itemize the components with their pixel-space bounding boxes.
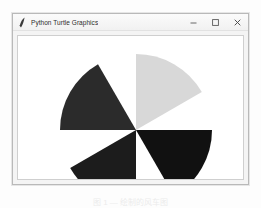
minimize-icon <box>189 18 198 27</box>
python-feather-icon <box>18 17 27 28</box>
maximize-button[interactable] <box>204 14 226 31</box>
minimize-button[interactable] <box>182 14 204 31</box>
figure-caption: 图 1 — 绘制的风车图 <box>0 198 261 208</box>
window-controls <box>182 14 248 30</box>
maximize-icon <box>211 18 220 27</box>
window-title: Python Turtle Graphics <box>31 18 98 27</box>
page-root: Python Turtle Graphics <box>0 0 261 208</box>
sector-upper-left <box>60 64 136 130</box>
pinwheel-sectors <box>60 54 212 180</box>
window-title-bar[interactable]: Python Turtle Graphics <box>13 14 248 31</box>
sector-upper-right <box>136 54 202 130</box>
close-icon <box>233 18 242 27</box>
close-button[interactable] <box>226 14 248 31</box>
sector-lower-right <box>136 130 212 180</box>
turtle-drawing-canvas[interactable] <box>17 35 244 180</box>
pinwheel-graphic <box>18 36 244 180</box>
turtle-graphics-window: Python Turtle Graphics <box>12 13 249 185</box>
sector-lower-left <box>70 130 136 180</box>
